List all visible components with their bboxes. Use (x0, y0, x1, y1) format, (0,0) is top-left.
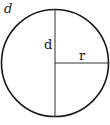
diameter-label: d (44, 37, 52, 52)
title-label: d (4, 1, 12, 16)
circle-diagram: d d r (0, 0, 110, 125)
radius-label: r (79, 48, 86, 63)
